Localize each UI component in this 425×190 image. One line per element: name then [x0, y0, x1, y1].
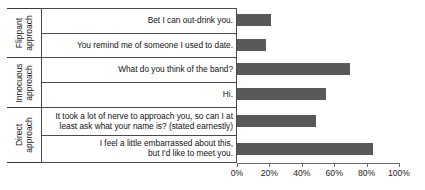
bar-5 — [237, 143, 373, 155]
table-row: It took a lot of nerve to approach you, … — [41, 107, 237, 135]
group-label-direct: Direct approach — [7, 107, 41, 163]
x-tick-label: 20% — [261, 168, 278, 178]
bar-0 — [237, 14, 271, 26]
x-tick-label: 60% — [326, 168, 343, 178]
table-row: Bet I can out-drink you. — [41, 8, 237, 33]
bar-4 — [237, 115, 316, 127]
x-tick — [269, 163, 270, 167]
group-label-column: Flippant approach Innocuous approach Dir… — [7, 8, 41, 163]
bar-label: Hi. — [223, 90, 233, 100]
x-tick-label: 100% — [388, 168, 410, 178]
bar-label: I feel a little embarrassed about this, … — [100, 139, 233, 158]
bar-label: What do you think of the band? — [118, 65, 233, 75]
table-row: I feel a little embarrassed about this, … — [41, 135, 237, 163]
bar-3 — [237, 88, 326, 100]
bar-label: You remind me of someone I used to date. — [77, 41, 233, 51]
group-label-flippant: Flippant approach — [7, 8, 41, 57]
x-tick — [334, 163, 335, 167]
group-label-line1: Direct — [14, 117, 24, 152]
x-tick-label: 40% — [293, 168, 310, 178]
group-label-line1: Flippant — [14, 15, 24, 50]
group-label-line2: approach — [24, 117, 34, 152]
group-label-line2: approach — [24, 15, 34, 50]
x-tick — [302, 163, 303, 167]
x-tick — [399, 163, 400, 167]
bar-1 — [237, 39, 266, 51]
bar-label: Bet I can out-drink you. — [148, 16, 233, 26]
table-row: Hi. — [41, 82, 237, 107]
group-label-line2: approach — [24, 63, 34, 102]
table-row: You remind me of someone I used to date. — [41, 33, 237, 57]
x-tick-label: 80% — [358, 168, 375, 178]
x-tick — [367, 163, 368, 167]
plot-area — [237, 8, 399, 163]
table-row: What do you think of the band? — [41, 57, 237, 82]
row-label-table: Flippant approach Innocuous approach Dir… — [7, 8, 237, 163]
horizontal-bar-chart: Flippant approach Innocuous approach Dir… — [0, 0, 425, 190]
group-label-innocuous: Innocuous approach — [7, 57, 41, 107]
x-tick-label: 0% — [231, 168, 243, 178]
bar-label-column: Bet I can out-drink you. You remind me o… — [41, 8, 237, 163]
bar-2 — [237, 63, 350, 75]
group-label-line1: Innocuous — [14, 63, 24, 102]
x-axis-line — [237, 163, 399, 164]
bar-label: It took a lot of nerve to approach you, … — [55, 112, 233, 131]
x-tick — [237, 163, 238, 167]
